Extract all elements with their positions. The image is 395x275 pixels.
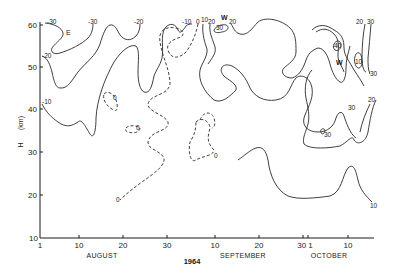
y-axis-unit: (km) xyxy=(17,116,25,130)
month-labels: AUGUST SEPTEMBER OCTOBER 1964 xyxy=(87,252,348,266)
contour-0-center-top xyxy=(120,24,198,200)
x-tick-aug-20: 20 xyxy=(119,241,128,250)
y-axis-title: H (km) xyxy=(17,116,25,148)
label-minus10-a: -10 xyxy=(182,18,192,25)
label-10-bottom: 10 xyxy=(370,202,378,209)
y-tick-50: 50 xyxy=(28,63,37,72)
chart-svg: 60 50 40 30 20 10 H (km) 1 10 20 30 10 2… xyxy=(0,0,395,275)
dashed-contours xyxy=(104,24,215,200)
x-tick-sep30-oct1: 30 1 xyxy=(297,241,313,250)
month-october: OCTOBER xyxy=(311,252,348,259)
x-tick-sep-10: 10 xyxy=(211,241,220,250)
label-30-r4: 30 xyxy=(324,131,332,138)
contour-10-bottom-right xyxy=(238,148,372,203)
contour-0-loop-4 xyxy=(200,113,215,128)
contour-0-loop-3 xyxy=(189,120,214,161)
x-tick-sep-20: 20 xyxy=(255,241,264,250)
label-W-right: W xyxy=(336,59,343,66)
contour-20-right-edge xyxy=(362,24,366,72)
label-0-top: 0 xyxy=(196,18,200,25)
label-0-bottom: 0 xyxy=(116,196,120,203)
label-minus30-b: -30 xyxy=(88,18,98,25)
label-40: 40 xyxy=(334,42,342,49)
y-tick-labels: 60 50 40 30 20 10 xyxy=(28,21,38,243)
y-axis-label: H xyxy=(17,142,24,147)
contour-30-right-edge xyxy=(368,24,371,74)
label-20-top: 20 xyxy=(208,18,216,25)
label-E-easterly: E xyxy=(66,29,71,36)
month-august: AUGUST xyxy=(87,252,118,259)
label-0-loop3: 0 xyxy=(214,152,218,159)
wind-contour-chart: 60 50 40 30 20 10 H (km) 1 10 20 30 10 2… xyxy=(0,0,395,275)
label-30-r3: 30 xyxy=(348,104,356,111)
x-tick-aug-10: 10 xyxy=(75,241,84,250)
month-september: SEPTEMBER xyxy=(220,252,266,259)
solid-contours xyxy=(42,19,376,202)
y-tick-60: 60 xyxy=(28,21,37,30)
contour-labels: -30 -30 -20 -20 -10 -10 0 0 0 0 0 10 20 … xyxy=(42,14,378,209)
label-W-top: W xyxy=(221,14,228,21)
label-20-top2: 20 xyxy=(229,18,237,25)
label-30-top: 30 xyxy=(216,24,224,31)
label-10-right-loop: 10 xyxy=(355,58,363,65)
x-tick-aug-30: 30 xyxy=(163,241,172,250)
label-20-r3: 20 xyxy=(368,96,376,103)
year-label: 1964 xyxy=(184,257,202,266)
x-tick-oct-10: 10 xyxy=(344,241,353,250)
y-tick-40: 40 xyxy=(28,105,37,114)
label-minus10-b: -10 xyxy=(42,98,52,105)
contour-minus30-left xyxy=(45,23,93,54)
label-minus20-a: -20 xyxy=(134,18,144,25)
label-minus30-a: -30 xyxy=(47,18,57,25)
label-20-right: 20 xyxy=(356,18,364,25)
label-0-loop1: 0 xyxy=(113,94,117,101)
label-30-right: 30 xyxy=(367,18,375,25)
label-30-r2: 30 xyxy=(370,70,378,77)
label-minus20-b: -20 xyxy=(42,52,52,59)
y-tick-20: 20 xyxy=(28,191,37,200)
label-0-loop2: 0 xyxy=(136,124,140,131)
x-tick-aug-1: 1 xyxy=(38,241,43,250)
y-tick-30: 30 xyxy=(28,148,37,157)
x-tick-labels: 1 10 20 30 10 20 30 1 10 xyxy=(38,241,353,250)
contour-10-top xyxy=(200,24,356,138)
